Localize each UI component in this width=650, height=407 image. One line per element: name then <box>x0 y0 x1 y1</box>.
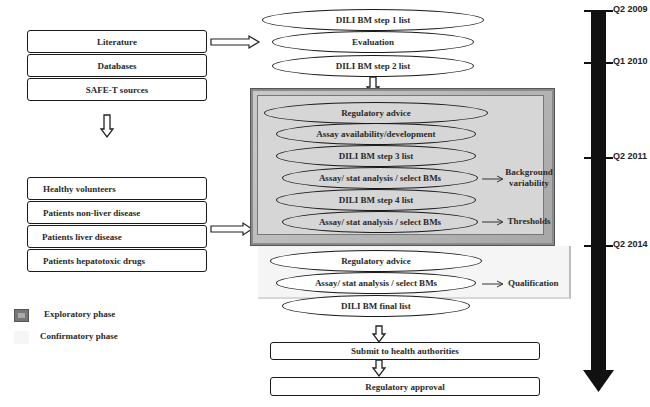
step-dili-bm-2: DILI BM step 2 list <box>272 55 474 77</box>
source-healthy-volunteers: Healthy volunteers <box>27 177 207 200</box>
source-label: SAFE-T sources <box>86 85 148 95</box>
final-submit-health-authorities: Submit to health authorities <box>270 342 540 360</box>
step-label: Assay/ stat analysis / select BMs <box>319 173 441 183</box>
arrow-right-icon <box>482 280 506 288</box>
step-evaluation: Evaluation <box>272 31 474 53</box>
timeline-tick <box>584 10 613 12</box>
step-label: Assay availability/development <box>316 129 435 139</box>
outcome-background-variability: Background variability <box>504 167 554 189</box>
source-non-liver: Patients non-liver disease <box>27 201 207 224</box>
timeline-arrowhead-icon <box>583 370 615 394</box>
final-step-label: Submit to health authorities <box>351 346 459 356</box>
legend-confirmatory-swatch <box>14 331 29 344</box>
step-label: Assay/ stat analysis / select BMs <box>319 217 441 227</box>
source-databases: Databases <box>27 54 207 77</box>
source-label: Patients non-liver disease <box>43 208 140 218</box>
exp-step-dili-bm-4: DILI BM step 4 list <box>276 189 476 211</box>
step-label: DILI BM step 3 list <box>339 151 414 161</box>
exp-step-dili-bm-3: DILI BM step 3 list <box>276 145 476 167</box>
step-label: DILI BM step 2 list <box>336 61 411 71</box>
arrow-right-icon <box>482 218 506 226</box>
outcome-qualification: Qualification <box>508 278 568 289</box>
source-liver-disease: Patients liver disease <box>27 225 207 248</box>
source-literature: Literature <box>27 30 207 53</box>
milestone-q1-2010: Q1 2010 <box>613 56 648 66</box>
source-label: Databases <box>97 61 136 71</box>
outcome-thresholds: Thresholds <box>506 216 552 227</box>
arrow-right-icon <box>482 175 506 183</box>
legend-exploratory-swatch <box>14 309 29 322</box>
down-arrow-icon <box>372 360 386 378</box>
timeline-bar <box>591 10 606 372</box>
right-arrow-icon <box>211 223 253 235</box>
conf-step-assay-analysis: Assay/ stat analysis / select BMs <box>276 272 476 294</box>
milestone-q2-2011: Q2 2011 <box>613 151 647 161</box>
source-label: Patients liver disease <box>42 232 122 242</box>
exp-step-regulatory-advice: Regulatory advice <box>264 102 488 124</box>
conf-step-regulatory-advice: Regulatory advice <box>270 250 482 272</box>
step-label: DILI BM final list <box>341 301 411 311</box>
source-hepatotoxic-drugs: Patients hepatotoxic drugs <box>27 249 207 272</box>
step-label: DILI BM step 4 list <box>339 195 414 205</box>
right-arrow-icon <box>211 36 261 48</box>
source-label: Patients hepatotoxic drugs <box>43 256 145 266</box>
timeline-tick <box>584 157 613 159</box>
exp-step-assay-analysis-2: Assay/ stat analysis / select BMs <box>282 211 478 233</box>
final-step-label: Regulatory approval <box>365 382 445 392</box>
step-label: Regulatory advice <box>341 256 411 266</box>
milestone-q2-2014: Q2 2014 <box>613 239 648 249</box>
step-label: Regulatory advice <box>341 108 411 118</box>
source-safe-t: SAFE-T sources <box>27 78 207 101</box>
source-label: Literature <box>97 37 137 47</box>
timeline-tick <box>584 245 613 247</box>
source-label: Healthy volunteers <box>43 184 116 194</box>
milestone-q2-2009: Q2 2009 <box>613 4 648 14</box>
step-label: Assay/ stat analysis / select BMs <box>315 278 437 288</box>
legend-exploratory-label: Exploratory phase <box>44 309 164 320</box>
down-arrow-icon <box>100 115 114 139</box>
step-label: DILI BM step 1 list <box>336 15 411 25</box>
conf-step-dili-bm-final: DILI BM final list <box>282 295 470 317</box>
final-regulatory-approval: Regulatory approval <box>270 377 540 396</box>
legend-confirmatory-label: Confirmatory phase <box>40 331 160 342</box>
step-label: Evaluation <box>352 37 394 47</box>
exp-step-assay-availability: Assay availability/development <box>276 123 476 145</box>
exp-step-assay-analysis-1: Assay/ stat analysis / select BMs <box>282 167 478 189</box>
timeline-tick <box>584 62 613 64</box>
step-dili-bm-1: DILI BM step 1 list <box>262 9 484 31</box>
